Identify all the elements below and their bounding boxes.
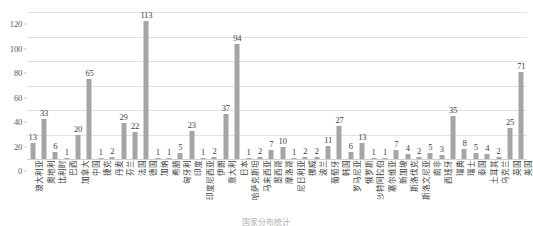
bar-group[interactable]: 2 — [300, 12, 311, 159]
bar-group[interactable]: 113 — [141, 12, 152, 159]
bar[interactable] — [382, 158, 387, 160]
bar[interactable] — [473, 153, 478, 159]
bar[interactable] — [178, 153, 183, 159]
bar-group[interactable]: 35 — [447, 12, 458, 159]
bar[interactable] — [485, 154, 490, 159]
bar-value-label: 33 — [40, 109, 48, 118]
x-tick: 斯洛伐克 — [402, 160, 413, 224]
bar[interactable] — [519, 72, 524, 159]
x-tick: 葡萄牙 — [322, 160, 333, 224]
bar[interactable] — [405, 154, 410, 159]
bar-group[interactable]: 29 — [118, 12, 129, 159]
bar[interactable] — [507, 128, 512, 159]
bar[interactable] — [235, 44, 240, 159]
bar-group[interactable]: 1 — [163, 12, 174, 159]
bar[interactable] — [167, 158, 172, 160]
bar-value-label: 113 — [140, 11, 152, 20]
bar[interactable] — [337, 126, 342, 159]
bar-group[interactable]: 71 — [516, 12, 527, 159]
x-tick: 加拿大 — [72, 160, 83, 224]
bar[interactable] — [223, 114, 228, 159]
bar[interactable] — [53, 152, 58, 159]
bar[interactable] — [417, 157, 422, 159]
bar[interactable] — [64, 158, 69, 160]
bar[interactable] — [42, 119, 47, 159]
bar-group[interactable]: 23 — [186, 12, 197, 159]
bar[interactable] — [303, 157, 308, 159]
bar[interactable] — [189, 131, 194, 159]
bar[interactable] — [326, 146, 331, 159]
bar[interactable] — [132, 132, 137, 159]
bar-group[interactable]: 1 — [288, 12, 299, 159]
bar[interactable] — [144, 21, 149, 159]
bar-group[interactable]: 20 — [72, 12, 83, 159]
bar-group[interactable]: 11 — [322, 12, 333, 159]
bar[interactable] — [155, 158, 160, 160]
bar-group[interactable]: 94 — [232, 12, 243, 159]
bar-group[interactable]: 13 — [357, 12, 368, 159]
bar-group[interactable]: 2 — [311, 12, 322, 159]
x-tick: 泰国 — [470, 160, 481, 224]
bar-group[interactable]: 7 — [266, 12, 277, 159]
bar-group[interactable]: 1 — [152, 12, 163, 159]
bar-group[interactable]: 6 — [345, 12, 356, 159]
bar-group[interactable]: 10 — [277, 12, 288, 159]
bar[interactable] — [360, 143, 365, 159]
bar-group[interactable]: 27 — [334, 12, 345, 159]
x-tick: 沙特阿拉伯 — [368, 160, 379, 224]
bar[interactable] — [394, 150, 399, 159]
bar[interactable] — [269, 150, 274, 159]
bar-group[interactable]: 37 — [220, 12, 231, 159]
bar[interactable] — [439, 155, 444, 159]
bar-group[interactable]: 3 — [436, 12, 447, 159]
bar-group[interactable]: 1 — [95, 12, 106, 159]
bar-group[interactable]: 22 — [129, 12, 140, 159]
bar-group[interactable]: 4 — [482, 12, 493, 159]
bar[interactable] — [212, 157, 217, 159]
y-tick-label: 40 — [14, 118, 22, 127]
bar[interactable] — [98, 158, 103, 160]
bar[interactable] — [30, 143, 35, 159]
x-tick: 乌克兰 — [493, 160, 504, 224]
bar-group[interactable]: 1 — [379, 12, 390, 159]
x-tick: 比利时 — [50, 160, 61, 224]
bar-group[interactable]: 2 — [209, 12, 220, 159]
bar[interactable] — [257, 157, 262, 159]
bar-group[interactable]: 4 — [402, 12, 413, 159]
bar-group[interactable]: 5 — [175, 12, 186, 159]
bar-group[interactable]: 1 — [197, 12, 208, 159]
bar-group[interactable]: 33 — [38, 12, 49, 159]
bar-group[interactable]: 8 — [459, 12, 470, 159]
bar-group[interactable]: 5 — [470, 12, 481, 159]
bar[interactable] — [314, 157, 319, 159]
bar-group[interactable]: 13 — [27, 12, 38, 159]
bar-group[interactable]: 6 — [50, 12, 61, 159]
bar-group[interactable]: 2 — [254, 12, 265, 159]
bar-group[interactable]: 2 — [413, 12, 424, 159]
bar-group[interactable]: 25 — [504, 12, 515, 159]
bar[interactable] — [121, 123, 126, 159]
bar[interactable] — [428, 153, 433, 159]
bar[interactable] — [451, 116, 456, 159]
bar[interactable] — [246, 158, 251, 160]
x-tick: 西班牙 — [436, 160, 447, 224]
bar-group[interactable]: 5 — [425, 12, 436, 159]
bar-group[interactable]: 1 — [61, 12, 72, 159]
bar[interactable] — [348, 152, 353, 159]
bar[interactable] — [76, 135, 81, 160]
bar[interactable] — [280, 147, 285, 159]
bar[interactable] — [462, 149, 467, 159]
bar[interactable] — [371, 158, 376, 160]
bar-group[interactable]: 1 — [243, 12, 254, 159]
bar-group[interactable]: 2 — [107, 12, 118, 159]
bar[interactable] — [110, 157, 115, 159]
bar-group[interactable]: 2 — [493, 12, 504, 159]
bar-value-label: 6 — [349, 142, 353, 151]
bar[interactable] — [201, 158, 206, 160]
bar[interactable] — [292, 158, 297, 160]
bar-group[interactable]: 7 — [391, 12, 402, 159]
bar-group[interactable]: 65 — [84, 12, 95, 159]
bar[interactable] — [87, 79, 92, 159]
bar-group[interactable]: 1 — [368, 12, 379, 159]
bar[interactable] — [496, 157, 501, 159]
